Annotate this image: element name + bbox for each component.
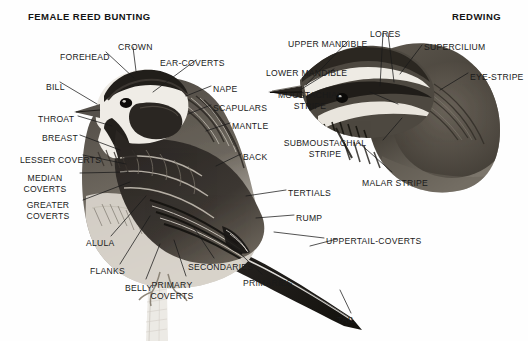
label-text: ALULA xyxy=(86,238,114,249)
bird-topography-figure: FEMALE REED BUNTING REDWING FOREHEADCROW… xyxy=(0,0,528,341)
label-text: PRIMARY xyxy=(150,280,193,291)
label-text: COVERTS xyxy=(26,211,69,222)
label-text: PRIMARIES xyxy=(243,278,293,289)
label-primary-coverts: PRIMARYCOVERTS xyxy=(150,280,193,302)
label-lower-mandible: LOWER MANDIBLE xyxy=(266,68,347,79)
label-flanks: FLANKS xyxy=(90,266,125,277)
label-alula: ALULA xyxy=(86,238,114,249)
label-nape: NAPE xyxy=(213,84,237,95)
label-text: SUBMOUSTACHIAL xyxy=(284,138,367,149)
label-text: SCAPULARS xyxy=(213,103,267,114)
label-text: LORES xyxy=(370,29,400,40)
label-uppertail-coverts: UPPERTAIL-COVERTS xyxy=(326,236,421,247)
label-text: STRIPE xyxy=(284,149,367,160)
label-text: CROWN xyxy=(118,42,153,53)
label-text: BACK xyxy=(243,152,267,163)
label-text: LOWER MANDIBLE xyxy=(266,68,347,79)
label-text: TAIL xyxy=(337,315,356,326)
redwing-illustration xyxy=(268,43,512,200)
label-text: STRIPE xyxy=(278,101,342,112)
label-lesser-coverts: LESSER COVERTS xyxy=(20,155,101,166)
label-bill: BILL xyxy=(46,82,65,93)
label-text: FLANKS xyxy=(90,266,125,277)
label-crown: CROWN xyxy=(118,42,153,53)
label-text: TERTIALS xyxy=(288,188,331,199)
panel-title-left: FEMALE REED BUNTING xyxy=(28,11,151,22)
label-text: UPPER MANDIBLE xyxy=(288,39,367,50)
label-throat: THROAT xyxy=(38,114,74,125)
label-text: GREATER xyxy=(26,200,69,211)
panel-title-right: REDWING xyxy=(452,11,501,22)
label-text: THROAT xyxy=(38,114,74,125)
label-median-coverts: MEDIANCOVERTS xyxy=(23,173,66,195)
label-forehead: FOREHEAD xyxy=(60,52,110,63)
label-scapulars: SCAPULARS xyxy=(213,103,267,114)
label-text: COVERTS xyxy=(23,184,66,195)
label-text: EAR-COVERTS xyxy=(160,58,225,69)
label-text: BREAST xyxy=(42,133,78,144)
label-secondaries: SECONDARIES xyxy=(188,262,253,273)
label-ear-coverts: EAR-COVERTS xyxy=(160,58,225,69)
label-rump: RUMP xyxy=(296,213,322,224)
label-eye-stripe: EYE-STRIPE xyxy=(470,72,524,83)
label-upper-mandible: UPPER MANDIBLE xyxy=(288,39,367,50)
label-text: BELLY xyxy=(125,283,152,294)
label-tail: TAIL xyxy=(337,315,356,326)
label-text: NAPE xyxy=(213,84,237,95)
label-text: UPPERTAIL-COVERTS xyxy=(326,236,421,247)
label-lores: LORES xyxy=(370,29,400,40)
label-tertials: TERTIALS xyxy=(288,188,331,199)
label-submoustachial-stripe: SUBMOUSTACHIALSTRIPE xyxy=(284,138,367,160)
label-text: BILL xyxy=(46,82,65,93)
label-text: MEDIAN xyxy=(23,173,66,184)
label-text: MANTLE xyxy=(232,121,268,132)
label-text: RUMP xyxy=(296,213,322,224)
label-supercilium: SUPERCILIUM xyxy=(424,42,485,53)
label-text: MALAR STRIPE xyxy=(362,178,428,189)
label-moustachial-stripe: MOUSTACHIALSTRIPE xyxy=(278,90,342,112)
label-greater-coverts: GREATERCOVERTS xyxy=(26,200,69,222)
label-breast: BREAST xyxy=(42,133,78,144)
label-text: FOREHEAD xyxy=(60,52,110,63)
label-text: MOUSTACHIAL xyxy=(278,90,342,101)
label-text: SECONDARIES xyxy=(188,262,253,273)
label-mantle: MANTLE xyxy=(232,121,268,132)
label-back: BACK xyxy=(243,152,267,163)
label-primaries: PRIMARIES xyxy=(243,278,293,289)
label-malar-stripe: MALAR STRIPE xyxy=(362,178,428,189)
label-belly: BELLY xyxy=(125,283,152,294)
label-text: COVERTS xyxy=(150,291,193,302)
label-text: EYE-STRIPE xyxy=(470,72,524,83)
label-text: LESSER COVERTS xyxy=(20,155,101,166)
label-text: SUPERCILIUM xyxy=(424,42,485,53)
